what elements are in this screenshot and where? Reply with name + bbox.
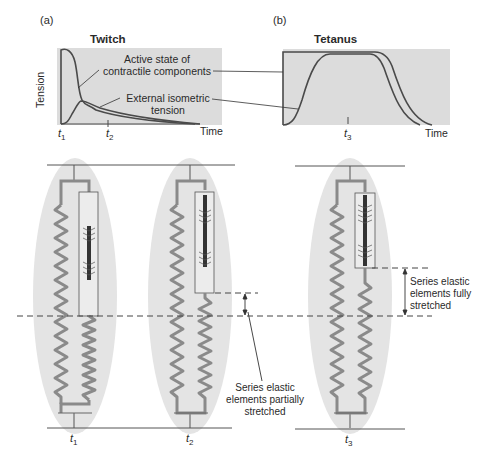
tetanus-title: Tetanus [314,33,357,45]
time-mark-t1: t1 [58,127,66,142]
annotation-series-elastic-partial: Series elastic elements partially stretc… [222,382,308,418]
model-label-t1: t1 [70,432,78,447]
annotation-active-state: Active state of contractile components [98,53,216,77]
model-label-t3: t3 [345,433,353,448]
twitch-title: Twitch [90,33,126,45]
y-axis-label-tension: Tension [34,72,46,108]
tetanus-graph-bg [283,49,450,125]
model-label-t2: t2 [186,432,194,447]
muscle-envelope-t2 [148,158,232,434]
muscle-envelope-t3 [308,158,392,434]
annotation-series-elastic-full: Series elastic elements fully stretched [410,276,471,312]
time-mark-t2: t2 [106,127,114,142]
time-mark-t3: t3 [344,127,352,142]
muscle-envelope-t1 [33,158,117,434]
panel-label-b: (b) [273,14,286,26]
x-axis-label-time-b: Time [425,127,448,139]
panel-label-a: (a) [40,14,53,26]
annotation-external-tension: External isometric tension [120,92,216,116]
x-axis-label-time-a: Time [200,125,223,137]
